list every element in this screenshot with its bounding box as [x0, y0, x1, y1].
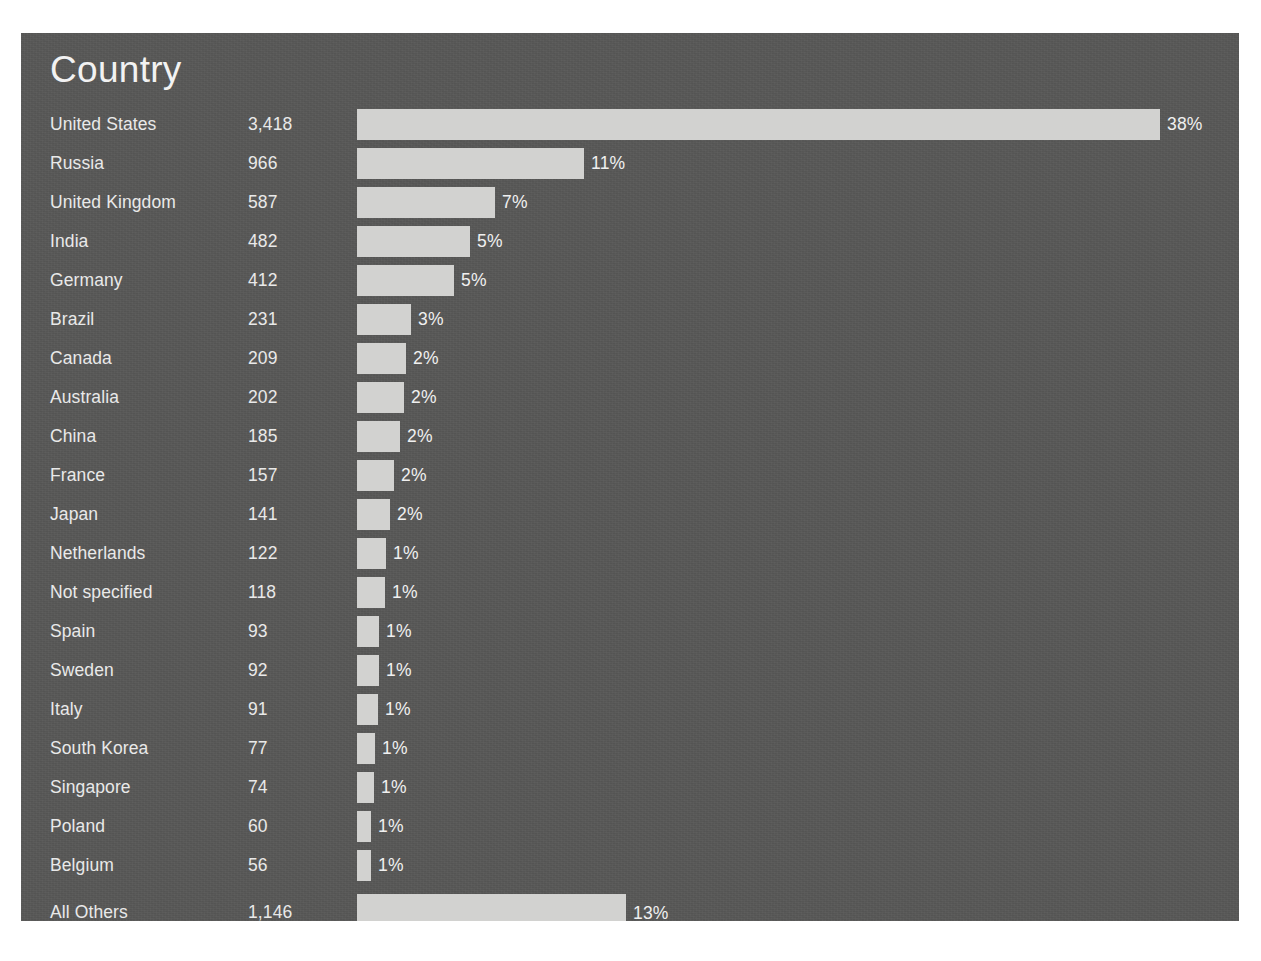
- table-row[interactable]: Poland601%: [21, 807, 1239, 846]
- bar[interactable]: [357, 694, 378, 725]
- bar-track: 5%: [357, 226, 1231, 257]
- table-row[interactable]: China1852%: [21, 417, 1239, 456]
- bar[interactable]: [357, 265, 454, 296]
- row-count-value: 185: [248, 417, 278, 456]
- row-category-label: United States: [50, 105, 156, 144]
- row-count-value: 231: [248, 300, 278, 339]
- bar-percent-label: 2%: [404, 382, 437, 413]
- table-row[interactable]: United States3,41838%: [21, 105, 1239, 144]
- table-row[interactable]: France1572%: [21, 456, 1239, 495]
- bar[interactable]: [357, 226, 470, 257]
- bar[interactable]: [357, 499, 390, 530]
- row-category-label: Sweden: [50, 651, 114, 690]
- row-count-value: 587: [248, 183, 278, 222]
- bar-track: 1%: [357, 655, 1231, 686]
- row-category-label: Spain: [50, 612, 95, 651]
- bar-track: 38%: [357, 109, 1231, 140]
- bar[interactable]: [357, 894, 626, 921]
- row-category-label: South Korea: [50, 729, 148, 768]
- bar-percent-label: 3%: [411, 304, 444, 335]
- row-category-label: Russia: [50, 144, 104, 183]
- row-count-value: 412: [248, 261, 278, 300]
- country-chart-panel: Country United States3,41838%Russia96611…: [21, 33, 1239, 921]
- bar-percent-label: 1%: [378, 694, 411, 725]
- bar-percent-label: 2%: [400, 421, 433, 452]
- bar-percent-label: 1%: [379, 655, 412, 686]
- bar-percent-label: 1%: [371, 811, 404, 842]
- row-count-value: 74: [248, 768, 268, 807]
- bar-percent-label: 2%: [390, 499, 423, 530]
- bar-track: 3%: [357, 304, 1231, 335]
- row-category-label: France: [50, 456, 105, 495]
- row-category-label: All Others: [50, 893, 128, 921]
- row-category-label: Australia: [50, 378, 119, 417]
- bar-track: 1%: [357, 850, 1231, 881]
- bar-track: 2%: [357, 460, 1231, 491]
- bar[interactable]: [357, 772, 374, 803]
- table-row[interactable]: Netherlands1221%: [21, 534, 1239, 573]
- bar[interactable]: [357, 343, 406, 374]
- bar-percent-label: 7%: [495, 187, 528, 218]
- bar-track: 1%: [357, 772, 1231, 803]
- page-title: Country: [50, 51, 182, 88]
- table-row[interactable]: Spain931%: [21, 612, 1239, 651]
- bar[interactable]: [357, 733, 375, 764]
- row-count-value: 92: [248, 651, 268, 690]
- table-row[interactable]: United Kingdom5877%: [21, 183, 1239, 222]
- table-row[interactable]: All Others1,14613%: [21, 885, 1239, 921]
- table-row[interactable]: India4825%: [21, 222, 1239, 261]
- bar[interactable]: [357, 304, 411, 335]
- row-count-value: 93: [248, 612, 268, 651]
- table-row[interactable]: Brazil2313%: [21, 300, 1239, 339]
- bar[interactable]: [357, 616, 379, 647]
- table-row[interactable]: Russia96611%: [21, 144, 1239, 183]
- bar-percent-label: 1%: [379, 616, 412, 647]
- row-count-value: 122: [248, 534, 278, 573]
- bar[interactable]: [357, 382, 404, 413]
- row-category-label: Netherlands: [50, 534, 145, 573]
- row-category-label: Not specified: [50, 573, 152, 612]
- bar-percent-label: 13%: [626, 894, 669, 921]
- row-count-value: 118: [248, 573, 276, 612]
- bar[interactable]: [357, 148, 584, 179]
- bar[interactable]: [357, 850, 371, 881]
- table-row[interactable]: Japan1412%: [21, 495, 1239, 534]
- bar[interactable]: [357, 538, 386, 569]
- bar-track: 13%: [357, 894, 1231, 921]
- bar-track: 1%: [357, 616, 1231, 647]
- row-count-value: 202: [248, 378, 278, 417]
- bar[interactable]: [357, 187, 495, 218]
- row-count-value: 77: [248, 729, 268, 768]
- bar-percent-label: 1%: [371, 850, 404, 881]
- bar-percent-label: 11%: [584, 148, 625, 179]
- row-count-value: 60: [248, 807, 268, 846]
- row-category-label: Belgium: [50, 846, 114, 885]
- table-row[interactable]: Sweden921%: [21, 651, 1239, 690]
- row-category-label: Canada: [50, 339, 112, 378]
- table-row[interactable]: South Korea771%: [21, 729, 1239, 768]
- table-row[interactable]: Germany4125%: [21, 261, 1239, 300]
- bar-percent-label: 1%: [385, 577, 418, 608]
- bar-percent-label: 5%: [454, 265, 487, 296]
- table-row[interactable]: Not specified1181%: [21, 573, 1239, 612]
- table-row[interactable]: Italy911%: [21, 690, 1239, 729]
- table-row[interactable]: Canada2092%: [21, 339, 1239, 378]
- row-category-label: Brazil: [50, 300, 94, 339]
- row-category-label: United Kingdom: [50, 183, 176, 222]
- bar[interactable]: [357, 577, 385, 608]
- row-count-value: 1,146: [248, 893, 292, 921]
- table-row[interactable]: Belgium561%: [21, 846, 1239, 885]
- bar-percent-label: 2%: [406, 343, 439, 374]
- bar[interactable]: [357, 460, 394, 491]
- table-row[interactable]: Australia2022%: [21, 378, 1239, 417]
- row-count-value: 3,418: [248, 105, 292, 144]
- row-count-value: 141: [248, 495, 278, 534]
- bar[interactable]: [357, 655, 379, 686]
- bar[interactable]: [357, 109, 1160, 140]
- bar-track: 7%: [357, 187, 1231, 218]
- table-row[interactable]: Singapore741%: [21, 768, 1239, 807]
- bar[interactable]: [357, 811, 371, 842]
- row-category-label: Japan: [50, 495, 98, 534]
- bar-track: 1%: [357, 811, 1231, 842]
- bar[interactable]: [357, 421, 400, 452]
